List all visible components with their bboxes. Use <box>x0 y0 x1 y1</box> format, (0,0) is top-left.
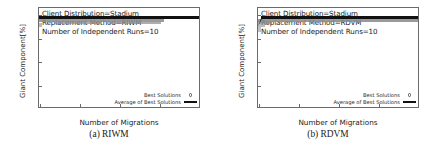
legend-row-average-b: Average of Best Solutions <box>333 99 416 105</box>
legend-b: Best Solutions Average of Best Solutions <box>333 92 416 105</box>
y-axis-label-b: Giant Component[%] <box>238 11 246 112</box>
x-tick-label-200-b: 200 <box>411 107 419 108</box>
x-tick-label-0-b: 0 <box>257 107 261 108</box>
average-best-solutions-line-a <box>39 16 199 19</box>
legend-label-average-a: Average of Best Solutions <box>114 99 181 105</box>
legend-label-best-b: Best Solutions <box>363 92 400 98</box>
x-tick-label-200-a: 200 <box>192 107 200 108</box>
legend-key-circle-icon-a <box>184 93 197 96</box>
average-best-solutions-line-b <box>261 16 418 19</box>
legend-row-average-a: Average of Best Solutions <box>114 99 197 105</box>
panel-riwm: Giant Component[%] Client Distribution=S… <box>0 0 218 150</box>
caption-b: (b) RDVM <box>219 129 437 139</box>
legend-key-circle-icon-b <box>403 93 416 96</box>
x-tick-label-0-a: 0 <box>38 107 42 108</box>
best-solutions-markers-b <box>258 19 418 22</box>
y-axis-label-wrap-b: Giant Component[%] <box>229 7 230 108</box>
x-tick-label-150-b: 150 <box>373 107 386 108</box>
legend-row-best-b: Best Solutions <box>363 92 416 98</box>
x-tick-label-150-a: 150 <box>154 107 167 108</box>
x-tick-label-100-a: 100 <box>114 107 127 108</box>
y-axis-label-wrap-a: Giant Component[%] <box>10 7 11 108</box>
best-solutions-markers-b4 <box>258 27 261 32</box>
y-axis-label-a: Giant Component[%] <box>19 11 27 112</box>
best-solutions-markers-a2 <box>55 22 101 24</box>
legend-key-line-icon-b <box>403 101 416 103</box>
legend-label-average-b: Average of Best Solutions <box>333 99 400 105</box>
legend-label-best-a: Best Solutions <box>144 92 181 98</box>
x-tick-label-100-b: 100 <box>333 107 346 108</box>
legend-row-best-a: Best Solutions <box>144 92 197 98</box>
x-axis-label-b: Number of Migrations <box>257 118 419 127</box>
panel-rdvm: Giant Component[%] Client Distribution=S… <box>219 0 437 150</box>
plot-area-riwm: Client Distribution=Stadium Replacement … <box>38 7 200 108</box>
best-solutions-markers-a3 <box>109 22 161 24</box>
caption-a: (a) RIWM <box>0 129 218 139</box>
legend-a: Best Solutions Average of Best Solutions <box>114 92 197 105</box>
x-tick-label-50-a: 50 <box>76 107 84 108</box>
figure-two-panel-plots: Giant Component[%] Client Distribution=S… <box>0 0 437 150</box>
x-tick-label-50-b: 50 <box>295 107 303 108</box>
best-solutions-markers-a4 <box>39 23 42 27</box>
plot-area-rdvm: Client Distribution=Stadium Replacement … <box>257 7 419 108</box>
legend-key-line-icon-a <box>184 101 197 103</box>
x-axis-label-a: Number of Migrations <box>38 118 200 127</box>
